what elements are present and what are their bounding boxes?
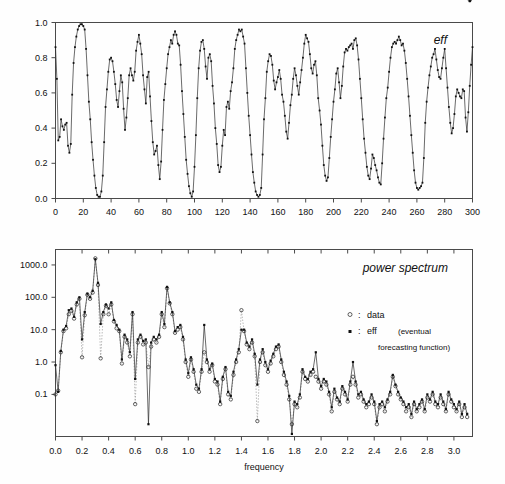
data-point — [114, 83, 116, 85]
data-point-eff — [171, 311, 173, 313]
legend-filled-dot-icon — [349, 330, 352, 333]
data-point-eff — [227, 391, 229, 393]
data-point — [413, 169, 415, 171]
data-point-eff — [187, 372, 189, 374]
data-point — [424, 122, 426, 124]
data-point — [113, 71, 115, 73]
data-point-eff — [416, 408, 418, 410]
data-point-eff — [264, 361, 266, 363]
data-point — [342, 66, 344, 68]
data-point — [64, 124, 66, 126]
data-point — [63, 129, 65, 131]
data-point — [292, 78, 294, 80]
data-point — [417, 189, 419, 191]
data-point-eff — [307, 378, 309, 380]
data-point-eff — [232, 371, 234, 373]
data-point — [383, 138, 385, 140]
data-point-eff — [81, 338, 83, 340]
data-point — [306, 37, 308, 39]
legend-note-eventual: (eventual — [398, 327, 431, 336]
data-point — [355, 37, 357, 39]
data-point-eff — [235, 358, 237, 360]
data-point — [119, 90, 121, 92]
x-tick-label: 0.4 — [102, 446, 115, 456]
data-point — [315, 60, 317, 62]
data-point-eff — [177, 326, 179, 328]
data-point-eff — [248, 345, 250, 347]
y-tick-label: 0.6 — [35, 88, 48, 98]
data-point — [359, 78, 361, 80]
data-point-eff — [153, 336, 155, 338]
data-point — [308, 41, 310, 43]
data-point — [327, 176, 329, 178]
data-point-eff — [211, 362, 213, 364]
data-point — [55, 46, 57, 48]
data-point — [75, 36, 77, 38]
data-point — [347, 50, 349, 52]
data-point-eff — [370, 393, 372, 395]
data-point-eff — [285, 380, 287, 382]
x-tick-label: 0.8 — [155, 446, 168, 456]
data-point-eff — [89, 296, 91, 298]
figure-svg: 0204060801001201401601802002202402602803… — [0, 0, 505, 484]
data-point-eff — [224, 366, 226, 368]
data-point — [267, 60, 269, 62]
data-point-eff — [113, 319, 115, 321]
data-point — [427, 87, 429, 89]
data-point — [244, 43, 246, 45]
data-point-eff — [267, 368, 269, 370]
data-point-eff — [376, 420, 378, 422]
data-point — [89, 118, 91, 120]
data-point-eff — [373, 400, 375, 402]
data-point — [337, 67, 339, 69]
x-tick-label: 20 — [78, 207, 88, 217]
data-point-eff — [230, 395, 232, 397]
x-tick-label: 80 — [162, 207, 172, 217]
data-point-eff — [275, 345, 277, 347]
data-point-eff — [357, 393, 359, 395]
x-tick-label: 260 — [409, 207, 424, 217]
data-point — [449, 122, 451, 124]
data-point-eff — [174, 330, 176, 332]
data-point-eff — [139, 334, 141, 336]
data-point-eff — [378, 403, 380, 405]
data-point-eff — [309, 371, 311, 373]
data-point — [367, 175, 369, 177]
data-point — [408, 96, 410, 98]
data-point-eff — [100, 323, 102, 325]
data-point-eff — [155, 338, 157, 340]
data-point — [173, 34, 175, 36]
data-point-eff — [92, 290, 94, 292]
data-point — [351, 43, 353, 45]
data-point — [316, 74, 318, 76]
data-point — [274, 88, 276, 90]
data-point-eff — [432, 391, 434, 393]
x-tick-label: 1.0 — [182, 446, 195, 456]
data-point — [110, 57, 112, 59]
data-point — [195, 134, 197, 136]
data-point — [234, 48, 236, 50]
data-point — [251, 154, 253, 156]
x-tick-label: 2.2 — [341, 446, 354, 456]
data-point-eff — [392, 374, 394, 376]
data-point-eff — [325, 380, 327, 382]
data-point — [467, 111, 469, 113]
data-point — [294, 67, 296, 69]
data-point — [238, 29, 240, 31]
data-point — [99, 196, 101, 198]
data-point — [320, 124, 322, 126]
data-point — [269, 53, 271, 55]
data-point — [217, 164, 219, 166]
data-point-eff — [469, 0, 471, 2]
data-point-eff — [331, 406, 333, 408]
data-point — [100, 191, 102, 193]
data-point — [305, 34, 307, 36]
data-point — [56, 78, 58, 80]
data-point — [333, 101, 335, 103]
data-point-eff — [108, 307, 110, 309]
data-point-eff — [102, 311, 104, 313]
data-point — [326, 180, 328, 182]
data-point — [157, 164, 159, 166]
data-point-eff — [426, 393, 428, 395]
data-point-eff — [299, 393, 301, 395]
